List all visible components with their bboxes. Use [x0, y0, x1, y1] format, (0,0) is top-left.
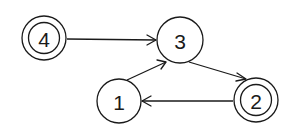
edge-1-to-3: [127, 60, 166, 80]
state-diagram: 4 3 1 2: [0, 0, 291, 135]
edge-2-to-1: [142, 96, 233, 106]
node-2-label: 2: [250, 90, 262, 113]
edge-4-to-3: [67, 35, 156, 45]
node-3-label: 3: [174, 30, 186, 53]
edge-3-to-2: [189, 62, 246, 81]
node-1-label: 1: [113, 91, 125, 114]
node-1: 1: [97, 79, 141, 123]
node-2: 2: [234, 78, 278, 122]
node-4-label: 4: [38, 28, 50, 51]
node-3: 3: [157, 17, 203, 63]
node-4: 4: [22, 16, 66, 60]
